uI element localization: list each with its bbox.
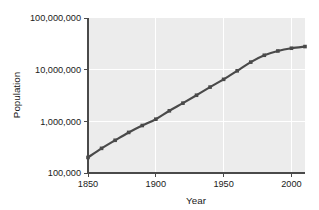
- data-point-marker: [86, 156, 90, 160]
- data-point-marker: [290, 46, 294, 50]
- data-point-marker: [208, 85, 212, 89]
- x-tick-label: 1850: [78, 179, 98, 189]
- data-point-marker: [276, 49, 280, 53]
- data-point-marker: [263, 53, 267, 57]
- data-point-marker: [195, 93, 199, 97]
- data-point-marker: [113, 138, 117, 142]
- x-axis-title: Year: [186, 195, 207, 206]
- x-tick-label: 2000: [281, 179, 301, 189]
- x-tick-label: 1950: [213, 179, 233, 189]
- data-point-marker: [235, 69, 239, 73]
- data-point-marker: [100, 147, 104, 151]
- y-axis-title: Population: [11, 72, 22, 118]
- data-point-marker: [168, 109, 172, 113]
- x-tick-label: 1900: [146, 179, 166, 189]
- data-point-marker: [249, 60, 253, 64]
- y-tick-label: 100,000: [48, 168, 81, 178]
- data-point-marker: [154, 117, 158, 121]
- data-point-marker: [127, 131, 131, 135]
- y-tick-label: 10,000,000: [35, 65, 81, 75]
- data-point-marker: [222, 78, 226, 82]
- y-tick-label: 100,000,000: [30, 13, 81, 23]
- data-point-marker: [140, 124, 144, 128]
- data-point-marker: [303, 45, 307, 49]
- population-growth-chart: 100,0001,000,00010,000,000100,000,000 18…: [0, 0, 319, 210]
- data-point-marker: [181, 101, 185, 105]
- y-tick-label: 1,000,000: [40, 117, 81, 127]
